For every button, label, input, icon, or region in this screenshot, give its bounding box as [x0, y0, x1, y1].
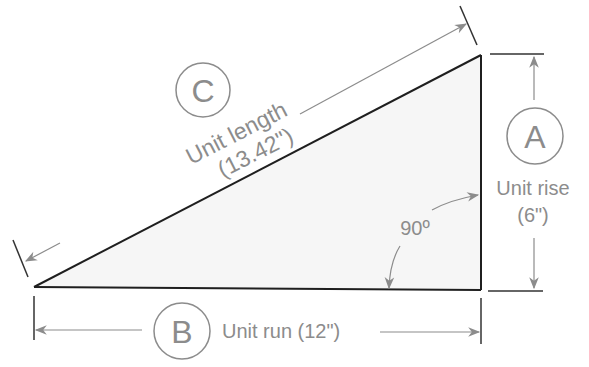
dimension-b: B Unit run (12")	[34, 296, 481, 359]
b-text: Unit run (12")	[222, 320, 340, 342]
a-letter: A	[524, 119, 546, 155]
right-triangle	[34, 55, 481, 290]
b-letter: B	[171, 314, 192, 350]
angle-label: 90º	[400, 217, 430, 239]
a-text-line1: Unit rise	[496, 177, 569, 199]
a-text-line2: (6")	[517, 204, 549, 226]
c-arrow-left	[26, 243, 60, 261]
c-letter: C	[191, 73, 214, 109]
dimension-a: A Unit rise (6")	[488, 54, 570, 291]
diagram-canvas: C Unit length (13.42") A Unit rise (6") …	[0, 0, 589, 367]
unit-triangle-diagram: C Unit length (13.42") A Unit rise (6") …	[0, 0, 589, 367]
c-left-tick	[13, 240, 28, 277]
